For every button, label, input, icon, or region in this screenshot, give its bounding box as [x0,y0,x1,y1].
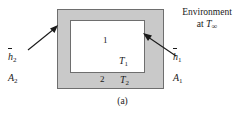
arrow-to-inner-surface-icon [138,32,178,58]
h2-symbol: h [8,49,13,64]
h1-subscript: 1 [178,56,182,64]
environment-at-text: at [197,19,206,29]
figure-caption: (a) [0,96,245,106]
a1-subscript: 1 [179,77,183,85]
a2-subscript: 2 [14,77,18,85]
t-infinity-subscript: ∞ [212,22,218,31]
environment-line-2: at T∞ [172,18,242,33]
region-1-label: 1 [103,36,108,45]
environment-line-1: Environment [182,7,232,17]
inner-cavity-shape [70,20,145,73]
arrow-to-outer-surface-icon [26,24,62,52]
t2-subscript: 2 [126,79,130,87]
outer-coefficient-area-group: h2 A2 [8,47,18,89]
region-2-label: 2 [100,75,105,84]
t1-subscript: 1 [125,60,129,68]
h2-label: h2 [8,47,18,68]
a2-label: A2 [8,68,18,89]
a1-label: A1 [173,68,183,89]
temperature-t1-label: T1 [119,56,128,68]
environment-label: Environment at T∞ [172,6,242,33]
h2-subscript: 2 [13,56,17,64]
temperature-t2-label: T2 [120,75,129,87]
heat-transfer-figure: 1 2 T1 T2 Environment at T∞ h2 A2 h1 A1 [0,0,245,113]
